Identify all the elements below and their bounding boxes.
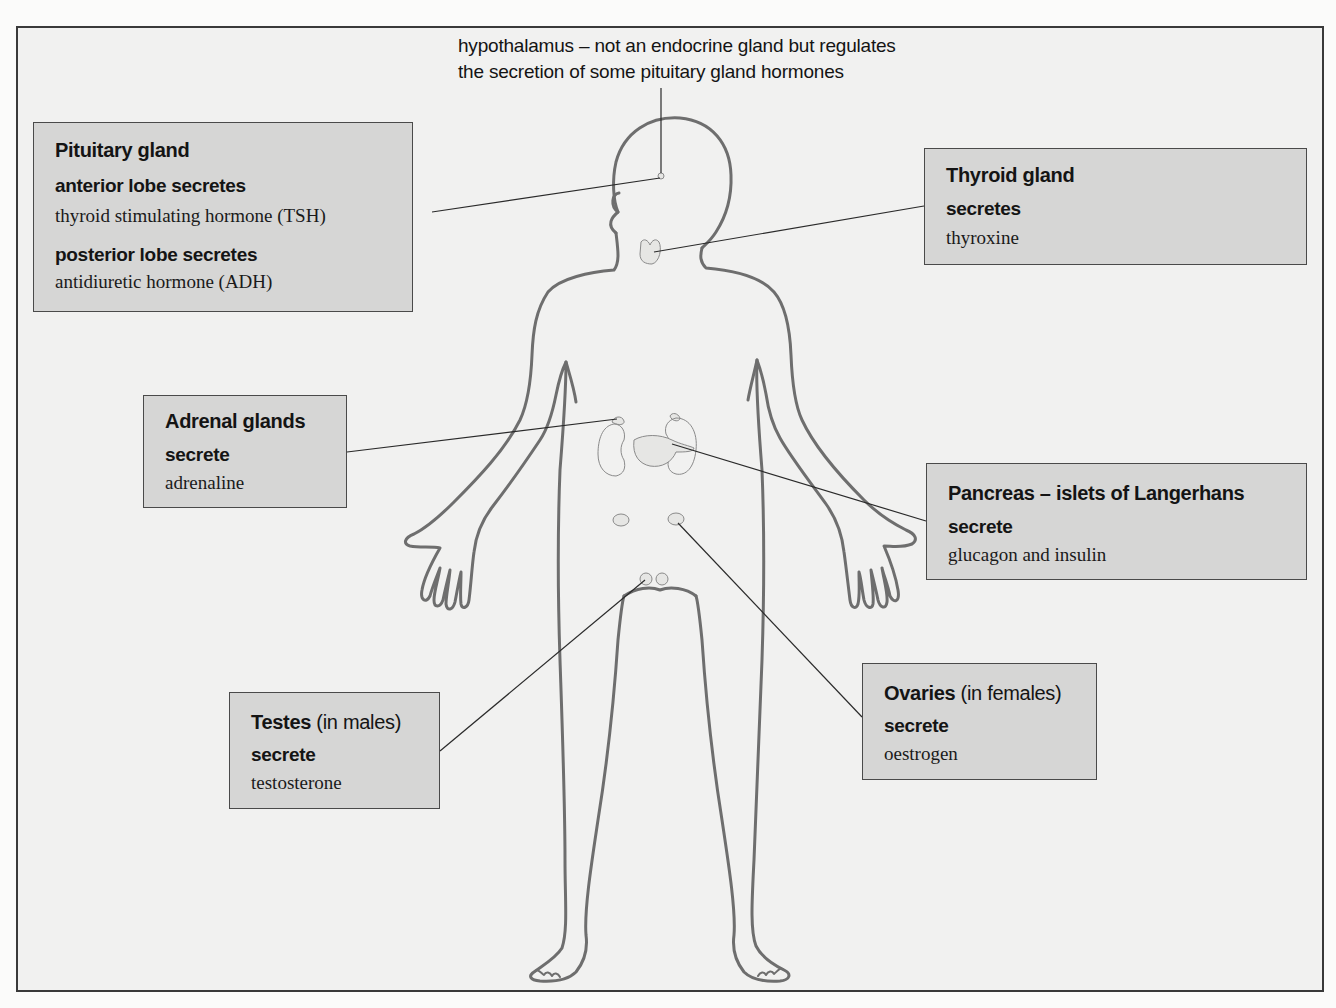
pancreas-secrete-label: secrete	[948, 516, 1012, 538]
ovary-left	[613, 514, 629, 526]
glands	[598, 173, 696, 585]
ovaries-title-bold: Ovaries	[884, 682, 955, 704]
pituitary-anterior-label: anterior lobe secretes	[55, 175, 246, 197]
testis-right	[656, 573, 668, 585]
ovaries-label-box: Ovaries (in females) secrete oestrogen	[862, 663, 1097, 780]
pituitary-hormone-tsh: thyroid stimulating hormone (TSH)	[55, 205, 326, 227]
hypothalamus-line-2: the secretion of some pituitary gland ho…	[458, 59, 896, 85]
testes-title-bold: Testes	[251, 711, 311, 733]
hypothalamus-line-1: hypothalamus – not an endocrine gland bu…	[458, 33, 896, 59]
testes-label-box: Testes (in males) secrete testosterone	[229, 692, 440, 809]
adrenal-left	[612, 417, 624, 425]
pituitary-leader	[432, 178, 660, 212]
adrenal-label-box: Adrenal glands secrete adrenaline	[143, 395, 347, 508]
ovaries-hormone: oestrogen	[884, 743, 958, 765]
left-inner-arm	[566, 362, 576, 402]
ovaries-secrete-label: secrete	[884, 715, 948, 737]
adrenal-hormone: adrenaline	[165, 472, 244, 494]
pancreas-hormone: glucagon and insulin	[948, 544, 1106, 566]
pituitary-hormone-adh: antidiuretic hormone (ADH)	[55, 271, 272, 293]
thyroid-title: Thyroid gland	[946, 164, 1074, 187]
testes-title-qualifier: (in males)	[311, 711, 401, 733]
pituitary-posterior-label: posterior lobe secretes	[55, 244, 257, 266]
thyroid-secretes-label: secretes	[946, 198, 1021, 220]
ovaries-title: Ovaries (in females)	[884, 682, 1061, 705]
hypothalamus-annotation: hypothalamus – not an endocrine gland bu…	[458, 33, 896, 85]
pancreas-gland	[634, 436, 694, 467]
left-toes	[534, 970, 560, 977]
kidney-left	[598, 424, 625, 476]
pituitary-title: Pituitary gland	[55, 139, 189, 162]
ovaries-title-qualifier: (in females)	[955, 682, 1061, 704]
adrenal-leader	[347, 419, 617, 452]
pancreas-label-box: Pancreas – islets of Langerhans secrete …	[926, 463, 1307, 580]
thyroid-label-box: Thyroid gland secretes thyroxine	[924, 148, 1307, 265]
testes-hormone: testosterone	[251, 772, 342, 794]
right-toes	[758, 969, 784, 976]
testes-leader	[440, 580, 645, 751]
left-torso-outline	[405, 233, 624, 981]
pancreas-leader	[672, 444, 926, 521]
leader-lines	[347, 88, 926, 751]
adrenal-title: Adrenal glands	[165, 410, 305, 433]
right-torso-outline	[696, 248, 915, 981]
ovary-right	[668, 513, 684, 525]
adrenal-secrete-label: secrete	[165, 444, 229, 466]
thyroid-hormone: thyroxine	[946, 227, 1019, 249]
pituitary-label-box: Pituitary gland anterior lobe secretes t…	[33, 122, 413, 312]
thyroid-leader	[654, 206, 924, 252]
pancreas-title: Pancreas – islets of Langerhans	[948, 482, 1244, 505]
testes-title: Testes (in males)	[251, 711, 401, 734]
testes-secrete-label: secrete	[251, 744, 315, 766]
